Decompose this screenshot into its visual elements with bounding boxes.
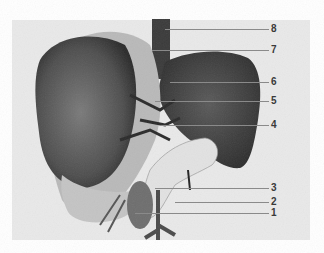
callout-label-6: 6 [271, 77, 277, 87]
leader-line-8 [165, 29, 269, 30]
leader-line-3 [155, 188, 269, 189]
callout-label-1: 1 [271, 208, 277, 218]
callout-label-7: 7 [271, 45, 277, 55]
callout-label-5: 5 [271, 96, 277, 106]
callout-label-2: 2 [271, 197, 277, 207]
callout-label-8: 8 [271, 24, 277, 34]
leader-line-6 [170, 82, 269, 83]
leader-line-5 [155, 101, 269, 102]
leader-line-1 [135, 213, 269, 214]
leader-line-7 [152, 50, 269, 51]
leader-line-2 [175, 202, 269, 203]
callout-label-3: 3 [271, 183, 277, 193]
callout-label-4: 4 [271, 120, 277, 130]
leader-line-4 [160, 125, 269, 126]
